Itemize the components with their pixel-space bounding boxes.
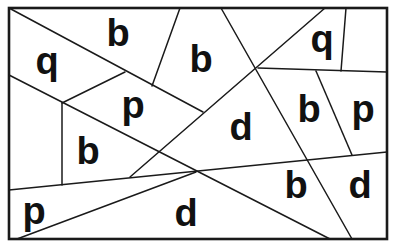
dividing-line [9, 152, 387, 190]
letter-b: b [297, 88, 320, 130]
dividing-line [152, 8, 180, 86]
letter-q: q [35, 40, 58, 82]
letter-d: d [229, 106, 252, 148]
dividing-line [316, 71, 352, 155]
dividing-line [258, 68, 387, 72]
letter-p: p [351, 88, 374, 130]
letter-p: p [121, 84, 144, 126]
letter-b: b [76, 130, 99, 172]
dividing-line [62, 72, 125, 103]
letter-b: b [189, 38, 212, 80]
dividing-line [341, 8, 346, 71]
letter-p: p [22, 190, 45, 232]
dividing-line [9, 75, 330, 239]
letter-q: q [310, 18, 333, 60]
puzzle-canvas: qbbqpdbpbpdbd [0, 0, 396, 245]
letter-d: d [348, 164, 371, 206]
letter-d: d [174, 192, 197, 234]
letter-puzzle-diagram: qbbqpdbpbpdbd [0, 0, 396, 245]
letter-b: b [106, 12, 129, 54]
letters: qbbqpdbpbpdbd [22, 12, 374, 234]
letter-b: b [284, 164, 307, 206]
